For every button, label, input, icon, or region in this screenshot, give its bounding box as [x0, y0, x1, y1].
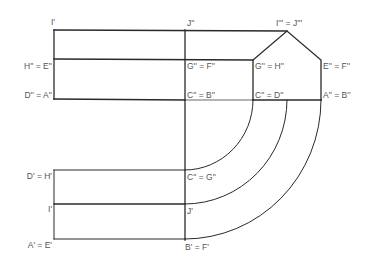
- outer-arc: [185, 100, 321, 239]
- label-g-dprime-eq-f-dprime: G'' = F'': [187, 61, 215, 71]
- top-rect-mid-line: [54, 59, 253, 60]
- label-c-dprime-eq-d-dprime: C'' = D'': [255, 90, 283, 100]
- inner-arc: [185, 100, 253, 170]
- label-i-prime-bottom: I': [0, 204, 52, 214]
- label-a-prime-eq-e-prime: A' = E': [0, 240, 52, 250]
- label-j-prime: J': [187, 206, 193, 216]
- label-j-dprime: J'': [187, 18, 195, 28]
- middle-arc: [185, 100, 287, 204]
- projection-drawing: [0, 0, 371, 259]
- label-e-dprime-eq-f-dprime: E'' = F'': [323, 61, 350, 71]
- label-d-prime-eq-h-prime: D' = H': [0, 171, 52, 181]
- top-rect-bottom-edge: [54, 99, 185, 100]
- label-c-dprime-eq-g-dprime: C'' = G'': [187, 172, 216, 182]
- label-i-tprime-eq-j-tprime: I''' = J''': [276, 18, 302, 28]
- top-edge-line: [54, 30, 287, 31]
- label-b-prime-eq-f-prime: B' = F': [185, 242, 209, 252]
- label-h-dprime-eq-e-dprime: H'' = E'': [0, 61, 52, 71]
- label-d-dprime-eq-a-dprime: D'' = A'': [0, 90, 52, 100]
- label-a-dprime-eq-b-dprime: A'' = B'': [323, 90, 351, 100]
- label-i-prime-top: I': [51, 17, 55, 27]
- label-c-dprime-eq-b-dprime: C'' = B'': [187, 90, 215, 100]
- label-g-dprime-eq-h-dprime: G'' = H'': [255, 61, 284, 71]
